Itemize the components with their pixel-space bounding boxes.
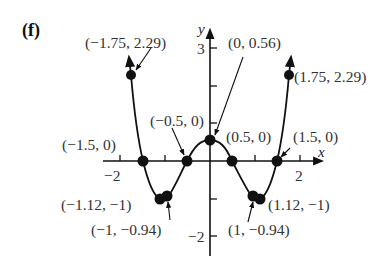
point-1.5	[272, 156, 283, 167]
y-tick-label-3: 3	[197, 40, 205, 57]
label-point-neg0.5: (−0.5, 0)	[150, 112, 204, 130]
point-neg1	[162, 191, 173, 202]
label-point-0.5: (0.5, 0)	[226, 128, 271, 146]
point-0.5	[227, 156, 238, 167]
point-0	[205, 135, 216, 146]
x-axis-name: x	[317, 144, 325, 160]
label-point-1.75: (1.75, 2.29)	[294, 68, 366, 86]
y-tick-label-neg2: −2	[188, 228, 205, 245]
x-axis: −2 2 x	[103, 144, 325, 184]
label-point-neg1.75: (−1.75, 2.29)	[85, 34, 166, 52]
label-point-1.5: (1.5, 0)	[293, 128, 338, 146]
y-axis-name: y	[196, 21, 205, 37]
point-1.12	[255, 194, 266, 205]
label-point-neg1: (−1, −0.94)	[91, 221, 161, 239]
label-point-0: (0, 0.56)	[228, 34, 281, 52]
panel-label: (f)	[22, 20, 40, 41]
label-point-neg1.12: (−1.12, −1)	[61, 196, 131, 214]
x-tick-label-2: 2	[295, 167, 303, 184]
label-point-neg1.5: (−1.5, 0)	[62, 136, 116, 154]
point-neg1.5	[138, 156, 149, 167]
point-neg1.75	[126, 70, 136, 80]
label-point-1.12: (1.12, −1)	[268, 196, 330, 214]
x-tick-label-neg2: −2	[104, 167, 121, 184]
label-point-1: (1, −0.94)	[228, 221, 290, 239]
point-1.75	[284, 70, 294, 80]
function-graph: (f) −2 2 x 3 −2 y	[0, 0, 391, 267]
point-neg0.5	[182, 156, 193, 167]
